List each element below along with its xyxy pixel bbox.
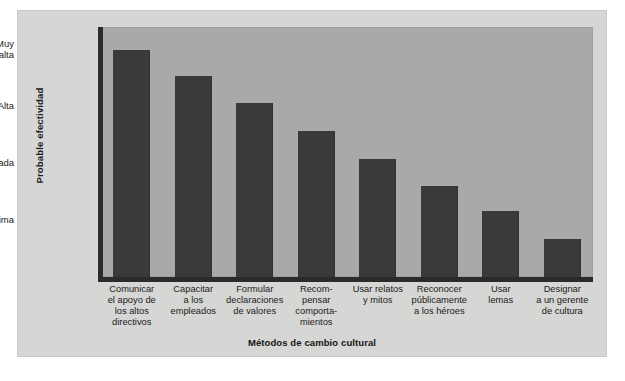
y-tick-label: Alta <box>0 101 14 112</box>
bar <box>175 76 212 277</box>
bar <box>544 239 581 277</box>
x-axis-tick-labels: Comunicar el apoyo de los altos directiv… <box>101 284 593 336</box>
bar <box>113 50 150 277</box>
y-axis-spine <box>98 27 103 280</box>
bar <box>359 159 396 277</box>
y-axis-title: Probable efectividad <box>34 76 45 196</box>
y-tick-label: Mínima <box>0 215 14 226</box>
bar <box>421 186 458 277</box>
chart-figure: Probable efectividad Muy altaAltaModerad… <box>17 10 607 357</box>
y-tick-label: Muy alta <box>0 39 14 60</box>
bar <box>298 131 335 277</box>
y-tick-label: Moderada <box>0 158 14 169</box>
x-tick-label: Designar a un gerente de cultura <box>526 284 600 317</box>
x-axis-title: Métodos de cambio cultural <box>17 337 607 348</box>
bar <box>482 211 519 277</box>
bar <box>236 103 273 277</box>
x-axis-spine <box>98 277 593 282</box>
